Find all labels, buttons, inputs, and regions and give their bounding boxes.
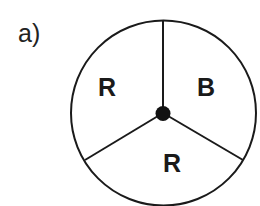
center-pivot-dot xyxy=(156,106,171,121)
sector-label-upper-right: B xyxy=(197,73,215,101)
divider-line-lower-left xyxy=(85,113,163,160)
spinner-figure: a) R B R xyxy=(0,0,260,206)
sector-label-upper-left: R xyxy=(98,73,116,101)
spinner-diagram: R B R xyxy=(0,0,260,206)
sector-label-bottom: R xyxy=(163,149,181,177)
